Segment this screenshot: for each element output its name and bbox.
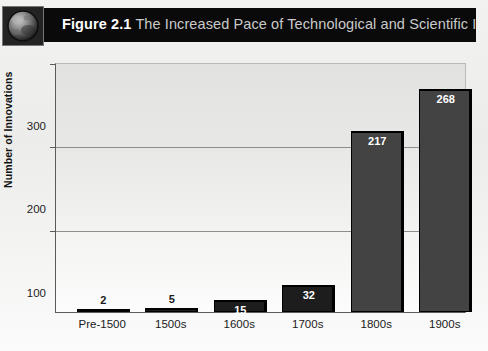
bar: 217 [351,131,404,312]
bar-value-label: 32 [282,289,335,301]
y-axis-title: Number of Innovations [2,72,14,188]
figure-title-text: The Increased Pace of Technological and … [135,16,476,32]
bar-value-label: 2 [77,294,130,306]
y-axis-tick [50,147,56,148]
bar-body [77,309,130,312]
y-axis-tick-label: 100 [27,287,46,299]
bar-value-label: 217 [351,135,404,147]
plot-area: 251532217268 [55,63,466,313]
bar: 2 [77,309,130,312]
bar-value-label: 5 [145,293,198,305]
x-axis-label: 1900s [404,318,485,330]
bar-value-label: 15 [214,304,267,316]
figure-container: Figure 2.1 The Increased Pace of Technol… [0,0,488,351]
bar-body [419,89,472,312]
bar: 5 [145,308,198,312]
y-axis-tick-label: 200 [27,203,46,215]
y-axis-tick [50,64,56,65]
bar: 15 [214,300,267,313]
y-axis-tick-label: 300 [27,120,46,132]
y-axis-tick [50,231,56,232]
bar: 32 [282,285,335,312]
bar-value-label: 268 [419,93,472,105]
bar-body [145,308,198,312]
figure-header-band: Figure 2.1 The Increased Pace of Technol… [10,8,476,42]
figure-title: Figure 2.1 The Increased Pace of Technol… [62,16,476,32]
globe-icon [2,6,44,46]
figure-number: Figure 2.1 [62,16,132,32]
bar: 268 [419,89,472,312]
bar-body [351,131,404,312]
